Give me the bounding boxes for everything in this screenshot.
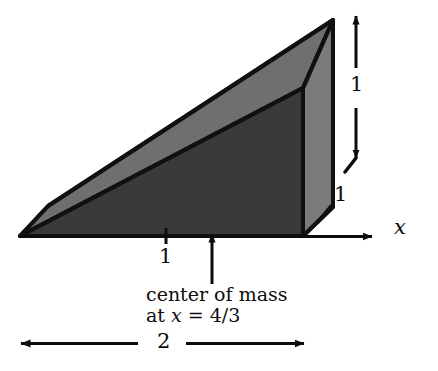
depth-one-label: 1: [334, 183, 347, 207]
com-line-2: at x = 4/3: [146, 305, 287, 326]
height-one-label: 1: [350, 73, 363, 97]
tick-one-label: 1: [159, 245, 172, 269]
center-of-mass-caption: center of mass at x = 4/3: [146, 284, 287, 327]
com-at-prefix: at: [146, 304, 171, 326]
x-axis-label: x: [394, 216, 406, 240]
geometry-figure: x 1 1 1 2 center of mass at x = 4/3: [0, 0, 438, 371]
width-two-label: 2: [157, 330, 170, 354]
com-value: = 4/3: [182, 304, 241, 326]
depth-dimension-tick-upper: [345, 158, 356, 172]
com-variable-x: x: [171, 304, 182, 326]
com-line-1: center of mass: [146, 284, 287, 305]
